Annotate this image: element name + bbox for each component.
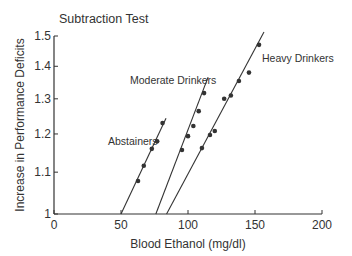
data-point <box>160 121 165 126</box>
series-label: Abstainers <box>108 135 158 147</box>
data-point <box>186 134 191 139</box>
chart: Subtraction Test Increase in Performance… <box>0 0 352 256</box>
data-point <box>136 179 141 184</box>
data-point <box>202 91 207 96</box>
data-point <box>237 79 242 84</box>
series-group: AbstainersModerate DrinkersHeavy Drinker… <box>108 32 334 214</box>
fit-line <box>156 77 208 214</box>
y-tick-label: 1 <box>44 207 51 221</box>
chart-title: Subtraction Test <box>59 12 149 26</box>
y-tick-label: 1.4 <box>34 59 51 73</box>
data-point <box>180 148 185 153</box>
series-abstainers: Abstainers <box>108 118 166 214</box>
series-heavy-drinkers: Heavy Drinkers <box>167 32 334 214</box>
series-label: Moderate Drinkers <box>130 74 216 86</box>
data-point <box>257 43 262 48</box>
data-point <box>150 147 155 152</box>
y-tick-label: 1.3 <box>34 92 51 106</box>
data-point <box>213 129 218 134</box>
y-axis-label: Increase in Performance Deficits <box>13 38 27 211</box>
y-tick-label: 1.1 <box>34 165 51 179</box>
x-tick-label: 200 <box>312 218 332 232</box>
x-tick-label: 50 <box>114 218 128 232</box>
x-tick-label: 100 <box>178 218 198 232</box>
y-tick-label: 1.5 <box>34 29 51 43</box>
x-tick-label: 150 <box>245 218 265 232</box>
x-tick-label: 0 <box>51 218 58 232</box>
data-point <box>141 164 146 169</box>
data-point <box>196 109 201 114</box>
data-point <box>200 146 205 151</box>
data-point <box>247 70 252 75</box>
x-axis-ticks: 050100150200 <box>51 210 333 232</box>
data-point <box>191 124 196 129</box>
series-label: Heavy Drinkers <box>262 52 334 64</box>
data-point <box>222 97 227 102</box>
data-point <box>208 133 213 138</box>
data-point <box>229 93 234 98</box>
y-tick-label: 1.2 <box>34 127 51 141</box>
x-axis-label: Blood Ethanol (mg/dl) <box>130 237 245 251</box>
fit-line <box>167 32 264 214</box>
